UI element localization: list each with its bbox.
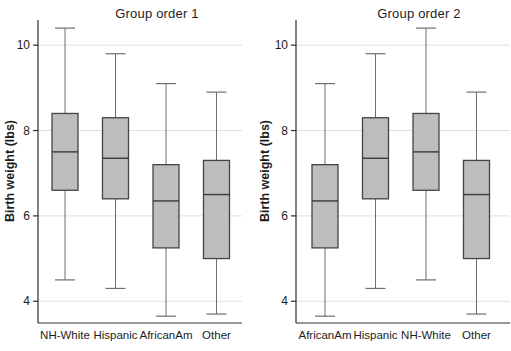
y-tick-label: 8 <box>281 124 288 138</box>
box-plots-canvas: 46810NH-WhiteHispanicAfricanAmOther46810… <box>0 0 511 351</box>
y-tick-label: 10 <box>275 38 289 52</box>
y-tick-label: 4 <box>23 294 30 308</box>
y-tick-label: 6 <box>281 209 288 223</box>
category-label: AfricanAm <box>298 329 351 341</box>
y-tick-label: 4 <box>281 294 288 308</box>
box-iqr <box>153 165 179 248</box>
category-label: NH-White <box>40 329 90 341</box>
panel-1-y-axis-label: Birth weight (lbs) <box>3 96 19 246</box>
panel-2-title: Group order 2 <box>329 6 509 21</box>
panel-2-y-axis-label: Birth weight (lbs) <box>258 96 274 246</box>
y-tick-label: 10 <box>17 38 31 52</box>
boxplot-figure: 46810NH-WhiteHispanicAfricanAmOther46810… <box>0 0 511 351</box>
panel-1-title: Group order 1 <box>67 6 247 21</box>
category-label: Hispanic <box>93 329 137 341</box>
category-label: AfricanAm <box>139 329 192 341</box>
box-iqr <box>204 160 230 258</box>
y-tick-label: 6 <box>23 209 30 223</box>
box-iqr <box>464 160 490 258</box>
category-label: NH-White <box>401 329 451 341</box>
y-tick-label: 8 <box>23 124 30 138</box>
category-label: Other <box>462 329 491 341</box>
category-label: Other <box>202 329 231 341</box>
category-label: Hispanic <box>353 329 397 341</box>
box-iqr <box>312 165 338 248</box>
